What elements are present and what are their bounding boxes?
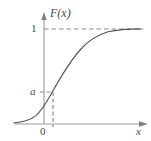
y-axis-arrowhead [41, 12, 46, 20]
y-tick-label-a: a [30, 86, 36, 97]
plot-canvas [0, 0, 151, 141]
y-axis-label: F(x) [50, 7, 71, 19]
y-tick-label-one: 1 [31, 23, 37, 34]
cdf-figure: F(x) 1 a 0 x [0, 0, 151, 141]
cdf-curve [14, 29, 141, 123]
x-axis-label: x [136, 126, 141, 137]
origin-label: 0 [40, 126, 46, 137]
